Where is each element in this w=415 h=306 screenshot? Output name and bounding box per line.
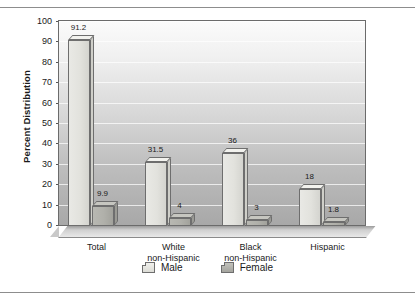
bar-chart: Percent Distribution 0102030405060708090… <box>0 8 415 292</box>
legend-item-male[interactable]: Male <box>142 262 183 273</box>
legend-label: Male <box>161 262 183 273</box>
bottom-divider-rule <box>0 292 415 293</box>
bar-value-label: 91.2 <box>71 23 87 32</box>
legend-item-female[interactable]: Female <box>221 262 273 273</box>
bar-front-face <box>68 40 90 226</box>
bar-value-label: 31.5 <box>148 145 164 154</box>
x-axis-category-label: Blacknon-Hispanic <box>224 242 277 264</box>
bar-value-label: 9.9 <box>97 189 108 198</box>
bar-value-label: 1.8 <box>328 205 339 214</box>
bar-front-face <box>246 220 268 226</box>
y-axis-tick-labels: 0102030405060708090100 <box>28 20 56 226</box>
bar-value-label: 3 <box>254 203 258 212</box>
chart-legend: MaleFemale <box>0 262 415 273</box>
bar-front-face <box>92 206 114 226</box>
bar-female-1: 4 <box>169 218 191 226</box>
bar-male-2: 36 <box>222 153 244 226</box>
y-axis-tick-label: 80 <box>26 57 52 67</box>
bar-female-3: 1.8 <box>323 222 345 226</box>
legend-label: Female <box>240 262 273 273</box>
y-axis-tick-label: 0 <box>26 220 52 230</box>
y-axis-tick-label: 60 <box>26 98 52 108</box>
bar-side-face <box>90 35 94 226</box>
bar-front-face <box>222 153 244 226</box>
chart-floor <box>50 226 374 238</box>
y-axis-tick-label: 40 <box>26 138 52 148</box>
y-axis-tick-label: 90 <box>26 36 52 46</box>
bar-male-3: 18 <box>299 189 321 226</box>
x-axis-category-label: Total <box>87 242 106 253</box>
bar-value-label: 4 <box>177 201 181 210</box>
category-label-line: Total <box>87 242 106 252</box>
bar-group-container: 91.29.931.54363181.8 <box>58 20 366 226</box>
category-label-line: White <box>162 242 185 252</box>
y-axis-tick-label: 70 <box>26 77 52 87</box>
bar-side-face <box>244 147 248 226</box>
bar-front-face <box>169 218 191 226</box>
chart-floor-surface <box>58 226 375 238</box>
y-axis-tick-label: 30 <box>26 159 52 169</box>
bar-front-face <box>299 189 321 226</box>
category-label-line: Black <box>239 242 261 252</box>
bar-male-0: 91.2 <box>68 40 90 226</box>
bar-front-face <box>145 162 167 226</box>
category-label-line: Hispanic <box>310 242 345 252</box>
male-swatch-icon <box>142 262 155 273</box>
bar-female-2: 3 <box>246 220 268 226</box>
bar-value-label: 36 <box>228 136 237 145</box>
bar-female-0: 9.9 <box>92 206 114 226</box>
bar-value-label: 18 <box>305 172 314 181</box>
y-axis-tick-label: 100 <box>26 16 52 26</box>
y-axis-tick-label: 20 <box>26 179 52 189</box>
bar-front-face <box>323 222 345 226</box>
x-axis-category-label: Whitenon-Hispanic <box>147 242 200 264</box>
bar-male-1: 31.5 <box>145 162 167 226</box>
y-axis-tick-label: 50 <box>26 118 52 128</box>
x-axis-category-label: Hispanic <box>310 242 345 253</box>
y-axis-tick-label: 10 <box>26 200 52 210</box>
female-swatch-icon <box>221 262 234 273</box>
